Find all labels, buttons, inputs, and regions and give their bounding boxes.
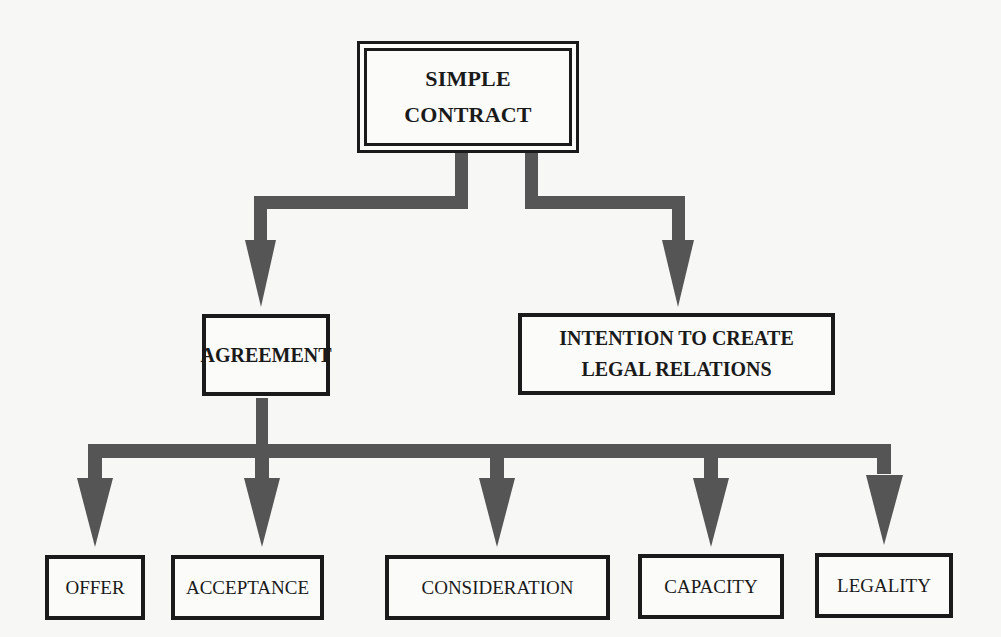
node-label: LEGALITY: [837, 575, 931, 597]
node-label: AGREEMENT: [200, 340, 331, 371]
node-label-line: INTENTION TO CREATE: [559, 323, 794, 354]
arrow-to-offer: [77, 444, 113, 547]
node-acceptance: ACCEPTANCE: [171, 555, 324, 620]
node-label-line: SIMPLE: [425, 61, 511, 97]
node-simple-contract-inner: SIMPLE CONTRACT: [364, 48, 572, 146]
node-consideration: CONSIDERATION: [385, 555, 610, 620]
node-label: ACCEPTANCE: [186, 577, 309, 599]
node-label: CAPACITY: [664, 576, 757, 598]
node-legality: LEGALITY: [815, 553, 953, 618]
node-simple-contract: SIMPLE CONTRACT: [357, 41, 579, 153]
node-capacity: CAPACITY: [638, 554, 784, 619]
arrow-agreement-to-bus: [88, 398, 891, 458]
node-label: CONSIDERATION: [422, 577, 574, 599]
arrow-root-to-intention: [525, 152, 694, 307]
node-label-line: LEGAL RELATIONS: [581, 354, 771, 385]
node-intention-to-create-legal-relations: INTENTION TO CREATE LEGAL RELATIONS: [518, 313, 835, 395]
arrow-root-to-agreement: [245, 152, 468, 307]
node-label-line: CONTRACT: [404, 97, 532, 133]
arrow-to-consideration: [479, 444, 515, 547]
node-label: OFFER: [65, 577, 124, 599]
node-agreement: AGREEMENT: [202, 314, 330, 396]
arrow-to-acceptance: [244, 444, 280, 547]
node-offer: OFFER: [45, 555, 145, 620]
arrow-to-capacity: [693, 444, 729, 547]
arrow-to-legality: [866, 444, 903, 545]
